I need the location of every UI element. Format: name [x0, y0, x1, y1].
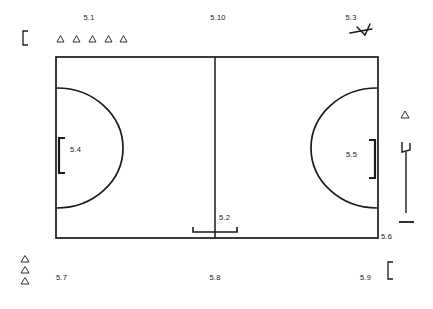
- left-goal-area-arc: [57, 88, 123, 208]
- triangle-icon: [21, 278, 29, 285]
- court-outline: [56, 57, 378, 238]
- triangle-icon: [73, 36, 80, 43]
- bracket-top-left-icon: [23, 31, 28, 45]
- bracket-bottom-right-icon: [388, 262, 393, 279]
- triangle-stack-bottom-left: [21, 256, 29, 285]
- court-schematic: [0, 0, 433, 309]
- left-goal: [59, 138, 65, 173]
- triangle-icon: [120, 36, 127, 43]
- label-5-6: 5.6: [381, 233, 392, 241]
- label-5-9: 5.9: [360, 274, 371, 282]
- label-5-2: 5.2: [219, 214, 230, 222]
- triangle-icon: [105, 36, 112, 43]
- right-goal: [369, 140, 375, 178]
- triangle-row-top: [57, 36, 127, 43]
- diagram-canvas: 5.1 5.10 5.3 5.4 5.5 5.2 5.6 5.7 5.8 5.9: [0, 0, 433, 309]
- triangle-icon: [21, 267, 29, 274]
- label-5-4: 5.4: [70, 146, 81, 154]
- label-5-10: 5.10: [210, 14, 225, 22]
- label-5-5: 5.5: [346, 151, 357, 159]
- label-5-1: 5.1: [83, 14, 94, 22]
- triangle-icon: [57, 36, 64, 43]
- arrow-marker-icon: [350, 24, 372, 35]
- label-5-8: 5.8: [209, 274, 220, 282]
- label-5-7: 5.7: [56, 274, 67, 282]
- triangle-icon: [21, 256, 29, 263]
- label-5-3: 5.3: [345, 14, 356, 22]
- triangle-icon-right: [401, 111, 409, 118]
- right-goal-area-arc: [311, 88, 377, 208]
- corner-flag-icon: [399, 142, 414, 222]
- triangle-icon: [89, 36, 96, 43]
